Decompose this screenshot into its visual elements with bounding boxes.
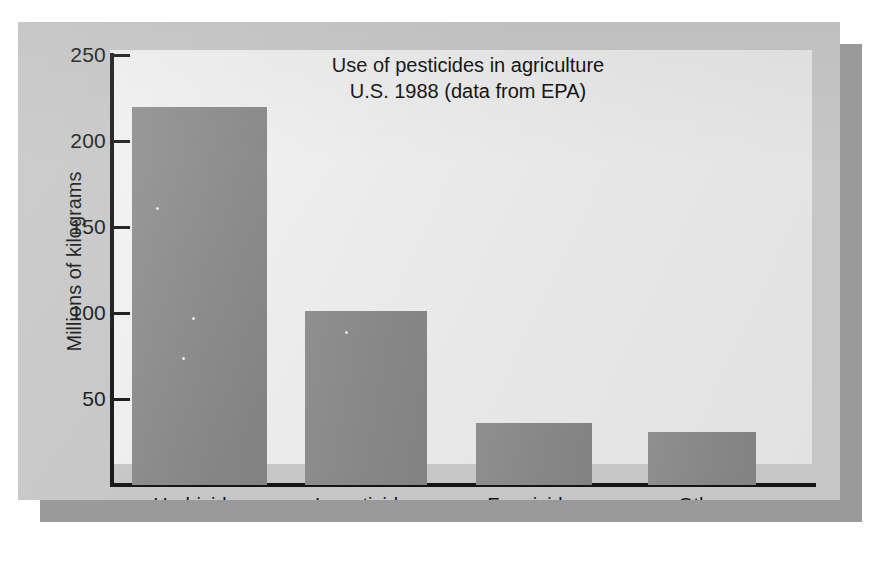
x-label-herbicides: Herbicides xyxy=(118,494,283,500)
bar-fungicides xyxy=(476,423,592,485)
chart-card: Use of pesticides in agriculture U.S. 19… xyxy=(18,22,840,500)
x-label-fungicides: Fungicides xyxy=(458,494,613,500)
x-label-other: Other xyxy=(630,494,776,500)
bar-insecticides xyxy=(305,311,427,485)
bar-speck xyxy=(192,317,195,320)
y-axis-title: Millions of kilograms xyxy=(63,112,86,412)
bar-speck xyxy=(345,331,348,334)
y-tick-label-wrap-250: 250 xyxy=(34,43,106,67)
y-tick-label-wrap-200: 200 xyxy=(34,129,106,153)
bar-speck xyxy=(156,207,159,210)
bar-herbicides xyxy=(132,107,267,485)
y-tick-label-50: 50 xyxy=(46,387,106,411)
x-axis-labels: Herbicides Insecticides Fungicides Other xyxy=(110,494,816,500)
y-tick-label-250: 250 xyxy=(46,43,106,67)
figure-root: Use of pesticides in agriculture U.S. 19… xyxy=(0,0,882,568)
bar-speck xyxy=(182,357,185,360)
bars-layer xyxy=(110,53,816,485)
y-tick-label-wrap-100: 100 xyxy=(34,301,106,325)
y-tick-label-wrap-150: 150 xyxy=(34,215,106,239)
x-label-insecticides: Insecticides xyxy=(288,494,446,500)
y-tick-label-200: 200 xyxy=(46,129,106,153)
y-tick-label-wrap-50: 50 xyxy=(34,387,106,411)
y-tick-label-100: 100 xyxy=(46,301,106,325)
y-tick-label-150: 150 xyxy=(46,215,106,239)
bar-other xyxy=(648,432,756,485)
